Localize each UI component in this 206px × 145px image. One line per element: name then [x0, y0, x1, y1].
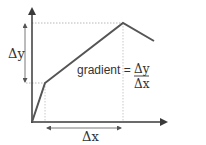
- gradient-label: gradient =: [77, 63, 131, 77]
- delta-y-label: Δy: [8, 46, 25, 61]
- gradient-diagram: Δy Δx gradient = Δy Δx: [0, 0, 206, 145]
- fraction-numerator: Δy: [134, 62, 150, 76]
- delta-x-label: Δx: [82, 129, 99, 144]
- fraction-denominator: Δx: [134, 77, 150, 91]
